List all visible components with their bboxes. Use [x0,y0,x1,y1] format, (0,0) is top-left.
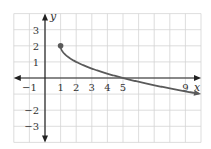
y-tick-label: 3 [33,25,39,36]
y-axis-label: y [49,10,57,23]
curve-line [61,46,199,94]
x-tick-label: 3 [89,82,95,93]
y-tick-label: 1 [33,57,39,68]
y-tick-label: 2 [33,41,39,52]
x-tick-label: 5 [120,82,126,93]
y-axis-arrow-up [42,14,48,21]
x-axis-label: x [194,81,201,94]
y-axis-arrow-down [42,135,48,142]
x-axis-arrow-left [14,75,21,81]
x-tick-label: −1 [22,82,37,93]
x-tick-label: 2 [73,82,79,93]
start-point [58,43,64,49]
y-tick-label: −2 [24,105,39,116]
x-tick-label: 4 [104,82,110,93]
y-tick-label: −3 [24,121,39,132]
x-tick-label: 1 [57,82,63,93]
chart: −1123459321−2−3 x y [0,0,211,149]
